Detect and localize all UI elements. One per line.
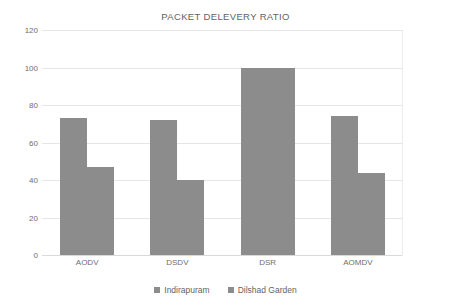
y-axis-tick-label: 100 xyxy=(4,63,38,72)
legend-item-label: Indirapuram xyxy=(164,285,209,295)
x-axis-tick-label: AOMDV xyxy=(343,258,372,267)
bar xyxy=(331,116,358,255)
gridline xyxy=(42,30,403,31)
plot-area xyxy=(42,30,403,255)
chart-title: PACKET DELEVERY RATIO xyxy=(0,11,451,22)
y-axis-tick-label: 120 xyxy=(4,26,38,35)
y-axis-tick-label: 60 xyxy=(4,138,38,147)
x-axis: AODVDSDVDSRAOMDV xyxy=(42,258,403,276)
gridline xyxy=(42,68,403,69)
y-axis-tick-label: 80 xyxy=(4,101,38,110)
bar xyxy=(177,180,204,255)
bar xyxy=(358,173,385,256)
y-axis-tick-label: 20 xyxy=(4,213,38,222)
bar xyxy=(268,68,295,256)
bar xyxy=(241,68,268,256)
y-axis-tick-label: 40 xyxy=(4,176,38,185)
bar xyxy=(150,120,177,255)
x-axis-tick-label: AODV xyxy=(76,258,99,267)
legend-item[interactable]: Dilshad Garden xyxy=(228,285,297,295)
bar xyxy=(87,167,114,255)
gridline xyxy=(42,255,403,256)
square-marker-icon xyxy=(228,287,234,293)
gridline xyxy=(42,105,403,106)
x-axis-tick-label: DSDV xyxy=(166,258,188,267)
legend-item[interactable]: Indirapuram xyxy=(154,285,209,295)
bar xyxy=(60,118,87,255)
square-marker-icon xyxy=(154,287,160,293)
y-axis-tick-label: 0 xyxy=(4,251,38,260)
y-axis: 020406080100120 xyxy=(0,30,38,255)
legend-item-label: Dilshad Garden xyxy=(238,285,297,295)
chart-legend: IndirapuramDilshad Garden xyxy=(0,285,451,295)
x-axis-tick-label: DSR xyxy=(259,258,276,267)
plot-right-border xyxy=(402,30,403,256)
bar-chart: PACKET DELEVERY RATIO 020406080100120 AO… xyxy=(0,0,451,308)
